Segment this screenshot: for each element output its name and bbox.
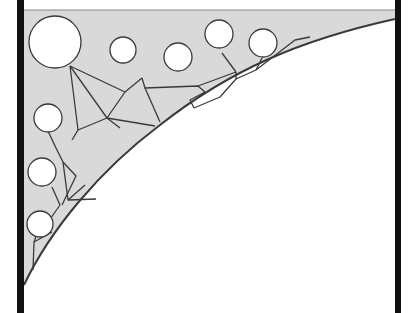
particle-circle xyxy=(27,211,53,237)
particle-surface-diagram xyxy=(0,0,418,313)
particle-circle xyxy=(34,104,62,132)
particle-circle xyxy=(205,20,233,48)
particle-circle xyxy=(249,29,277,57)
left-frame-bar xyxy=(17,0,24,313)
right-frame-bar xyxy=(395,0,401,313)
particle-circle xyxy=(29,16,81,68)
particle-circle xyxy=(110,37,136,63)
diagram-canvas xyxy=(0,0,418,313)
particle-circle xyxy=(164,43,192,71)
particle-circle xyxy=(28,158,56,186)
